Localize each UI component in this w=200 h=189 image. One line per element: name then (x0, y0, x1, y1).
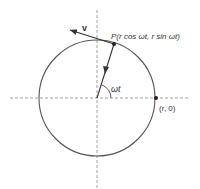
radial-acceleration-arrowhead (103, 66, 109, 74)
angle-label: ωt (111, 84, 121, 94)
point-r0-label: (r, 0) (159, 104, 176, 113)
velocity-vector (70, 30, 114, 44)
velocity-label: v (82, 23, 87, 33)
point-p-dot (112, 42, 116, 46)
point-p-label: P(r cos ωt, r sin ωt) (111, 32, 180, 41)
angle-arc (102, 85, 111, 98)
point-r0-dot (154, 96, 158, 100)
circular-motion-diagram: v P(r cos ωt, r sin ωt) ωt (r, 0) (0, 0, 200, 189)
